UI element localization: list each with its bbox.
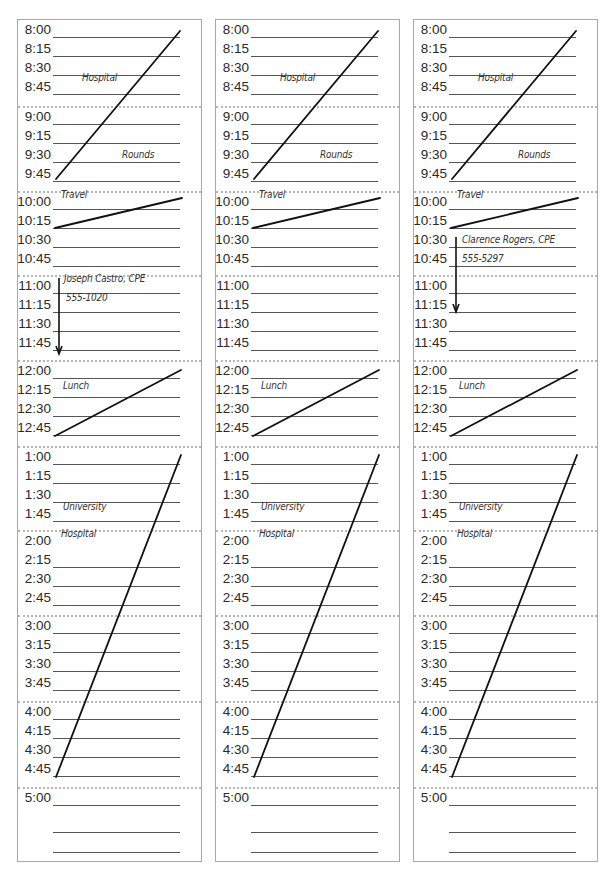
time-slot-row[interactable]: 9:45	[18, 163, 201, 182]
time-slot-row[interactable]: 5:00	[414, 787, 597, 806]
time-slot-row[interactable]: 8:00	[414, 19, 597, 38]
writing-line[interactable]	[449, 94, 576, 95]
writing-line[interactable]	[53, 605, 180, 606]
time-slot-row[interactable]: 12:00	[18, 360, 201, 379]
time-slot-row[interactable]: 12:45	[18, 417, 201, 436]
time-slot-row[interactable]: 1:15	[414, 465, 597, 484]
time-slot-row[interactable]: 9:30	[18, 144, 201, 163]
writing-line[interactable]	[251, 832, 378, 833]
writing-line[interactable]	[251, 350, 378, 351]
writing-line[interactable]	[449, 266, 576, 267]
writing-line[interactable]	[251, 94, 378, 95]
time-slot-row[interactable]: 11:30	[414, 313, 597, 332]
time-slot-row[interactable]: 3:30	[216, 653, 399, 672]
time-slot-row[interactable]: 2:15	[18, 549, 201, 568]
time-slot-row[interactable]: 1:30	[216, 484, 399, 503]
time-slot-row[interactable]: 4:45	[216, 758, 399, 777]
time-slot-row[interactable]: 3:00	[18, 615, 201, 634]
time-slot-row[interactable]: 9:45	[216, 163, 399, 182]
time-slot-row[interactable]: 9:00	[18, 106, 201, 125]
time-slot-row[interactable]: 12:30	[18, 398, 201, 417]
writing-line[interactable]	[449, 852, 576, 853]
writing-line[interactable]	[53, 852, 180, 853]
time-slot-row[interactable]: 1:00	[216, 446, 399, 465]
time-slot-row[interactable]: 8:00	[216, 19, 399, 38]
time-slot-row[interactable]: 12:15	[414, 379, 597, 398]
writing-line[interactable]	[53, 181, 180, 182]
time-slot-row[interactable]: 10:45	[216, 248, 399, 267]
time-slot-row[interactable]: 4:30	[18, 739, 201, 758]
time-slot-row[interactable]: 9:15	[18, 125, 201, 144]
writing-line[interactable]	[449, 350, 576, 351]
time-slot-row[interactable]: 2:00	[18, 530, 201, 549]
time-slot-row[interactable]: 1:15	[18, 465, 201, 484]
time-slot-row[interactable]	[18, 814, 201, 833]
time-slot-row[interactable]: 10:30	[216, 229, 399, 248]
time-slot-row[interactable]: 2:45	[414, 587, 597, 606]
time-slot-row[interactable]: 9:15	[414, 125, 597, 144]
writing-line[interactable]	[251, 435, 378, 436]
time-slot-row[interactable]: 11:15	[414, 294, 597, 313]
time-slot-row[interactable]: 1:30	[18, 484, 201, 503]
time-slot-row[interactable]: 4:45	[414, 758, 597, 777]
time-slot-row[interactable]: 10:45	[18, 248, 201, 267]
time-slot-row[interactable]: 12:30	[414, 398, 597, 417]
time-slot-row[interactable]: 4:30	[414, 739, 597, 758]
writing-line[interactable]	[449, 521, 576, 522]
writing-line[interactable]	[251, 776, 378, 777]
time-slot-row[interactable]	[414, 834, 597, 853]
time-slot-row[interactable]: 3:00	[216, 615, 399, 634]
time-slot-row[interactable]: 10:15	[414, 210, 597, 229]
writing-line[interactable]	[251, 852, 378, 853]
time-slot-row[interactable]: 10:15	[18, 210, 201, 229]
time-slot-row[interactable]: 11:45	[18, 332, 201, 351]
time-slot-row[interactable]: 3:15	[414, 634, 597, 653]
time-slot-row[interactable]: 2:30	[216, 568, 399, 587]
writing-line[interactable]	[53, 435, 180, 436]
time-slot-row[interactable]: 2:45	[216, 587, 399, 606]
time-slot-row[interactable]: 4:00	[414, 701, 597, 720]
time-slot-row[interactable]: 4:15	[18, 720, 201, 739]
time-slot-row[interactable]: 4:30	[216, 739, 399, 758]
time-slot-row[interactable]: 3:15	[18, 634, 201, 653]
time-slot-row[interactable]: 2:00	[414, 530, 597, 549]
time-slot-row[interactable]: 11:30	[216, 313, 399, 332]
time-slot-row[interactable]: 1:45	[414, 503, 597, 522]
time-slot-row[interactable]: 5:00	[216, 787, 399, 806]
time-slot-row[interactable]: 4:00	[216, 701, 399, 720]
time-slot-row[interactable]: 9:00	[216, 106, 399, 125]
time-slot-row[interactable]: 9:30	[216, 144, 399, 163]
time-slot-row[interactable]: 3:30	[414, 653, 597, 672]
time-slot-row[interactable]: 11:45	[414, 332, 597, 351]
writing-line[interactable]	[53, 832, 180, 833]
time-slot-row[interactable]: 12:00	[414, 360, 597, 379]
time-slot-row[interactable]: 11:45	[216, 332, 399, 351]
time-slot-row[interactable]: 1:45	[18, 503, 201, 522]
writing-line[interactable]	[53, 266, 180, 267]
time-slot-row[interactable]: 1:30	[414, 484, 597, 503]
time-slot-row[interactable]: 2:45	[18, 587, 201, 606]
time-slot-row[interactable]: 1:45	[216, 503, 399, 522]
time-slot-row[interactable]: 3:30	[18, 653, 201, 672]
writing-line[interactable]	[53, 350, 180, 351]
time-slot-row[interactable]: 2:30	[414, 568, 597, 587]
time-slot-row[interactable]: 2:30	[18, 568, 201, 587]
writing-line[interactable]	[53, 776, 180, 777]
time-slot-row[interactable]: 3:45	[18, 672, 201, 691]
writing-line[interactable]	[251, 605, 378, 606]
time-slot-row[interactable]: 8:15	[414, 38, 597, 57]
time-slot-row[interactable]: 2:00	[216, 530, 399, 549]
time-slot-row[interactable]	[216, 834, 399, 853]
time-slot-row[interactable]: 4:15	[216, 720, 399, 739]
writing-line[interactable]	[449, 805, 576, 806]
time-slot-row[interactable]: 1:15	[216, 465, 399, 484]
writing-line[interactable]	[449, 435, 576, 436]
time-slot-row[interactable]: 12:45	[216, 417, 399, 436]
time-slot-row[interactable]: 10:45	[414, 248, 597, 267]
time-slot-row[interactable]: 4:00	[18, 701, 201, 720]
time-slot-row[interactable]: 11:15	[216, 294, 399, 313]
time-slot-row[interactable]: 12:15	[216, 379, 399, 398]
time-slot-row[interactable]: 8:15	[216, 38, 399, 57]
time-slot-row[interactable]	[414, 814, 597, 833]
time-slot-row[interactable]: 4:45	[18, 758, 201, 777]
